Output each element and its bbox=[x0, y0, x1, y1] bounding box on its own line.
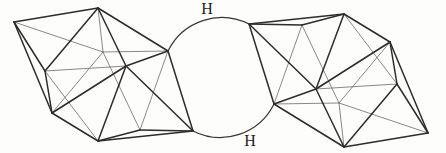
cluster-front-edge bbox=[316, 42, 390, 89]
cluster-back-edge bbox=[274, 103, 339, 104]
bridged-borane-cluster-diagram: HH bbox=[0, 0, 446, 153]
cluster-front-edge bbox=[249, 24, 302, 25]
cluster-back-edge bbox=[45, 66, 126, 71]
cluster-front-edge bbox=[14, 22, 45, 71]
cluster-front-edge bbox=[390, 42, 397, 84]
cluster-front-edge bbox=[140, 130, 193, 131]
cluster-front-edge bbox=[98, 66, 126, 141]
bridge-arc-bottom bbox=[193, 104, 274, 138]
cluster-front-edge bbox=[390, 42, 428, 133]
cluster-front-edge bbox=[45, 71, 52, 113]
cluster-back-edge bbox=[103, 51, 168, 52]
cluster-back-edge bbox=[339, 42, 390, 103]
cluster-front-edge bbox=[45, 8, 98, 71]
cluster-front-edge bbox=[274, 89, 316, 104]
cluster-front-edge bbox=[52, 113, 98, 141]
cluster-back-edge bbox=[339, 103, 428, 133]
cluster-front-edge bbox=[14, 8, 98, 22]
figure-page: HH bbox=[0, 0, 446, 153]
cluster-front-edge bbox=[249, 14, 344, 24]
bridge-hydrogen-bottom-label: H bbox=[244, 132, 256, 149]
cluster-back-edge bbox=[316, 84, 397, 89]
cluster-back-edge bbox=[14, 22, 103, 52]
bridge-arc-top bbox=[168, 17, 249, 51]
cluster-front-edge bbox=[344, 133, 428, 147]
cluster-back-edge bbox=[274, 25, 302, 104]
cluster-back-edge bbox=[45, 71, 98, 141]
cluster-front-edge bbox=[52, 66, 126, 113]
cluster-front-edge bbox=[316, 14, 344, 89]
cluster-front-edge bbox=[98, 131, 193, 141]
cluster-front-edge bbox=[397, 84, 428, 133]
cluster-back-edge bbox=[140, 51, 168, 130]
cluster-front-edge bbox=[126, 51, 168, 66]
cluster-front-edge bbox=[344, 84, 397, 147]
cluster-back-edge bbox=[344, 14, 397, 84]
right-icosahedron-cluster bbox=[249, 14, 428, 147]
cluster-back-edge bbox=[52, 52, 103, 113]
bridge-hydrogen-top-label: H bbox=[201, 0, 213, 17]
left-icosahedron-cluster bbox=[14, 8, 193, 141]
cluster-front-edge bbox=[344, 14, 390, 42]
cluster-front-edge bbox=[14, 22, 52, 113]
